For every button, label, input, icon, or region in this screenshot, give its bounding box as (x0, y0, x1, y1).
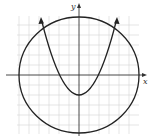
parabola-left-arrow-icon (39, 17, 45, 24)
x-axis-label: x (143, 77, 148, 86)
axes (6, 6, 144, 136)
y-axis-arrow-icon (77, 3, 81, 8)
y-axis-label: y (70, 2, 76, 11)
graph: y x (0, 0, 148, 140)
parabola-right-arrow-icon (114, 17, 120, 24)
